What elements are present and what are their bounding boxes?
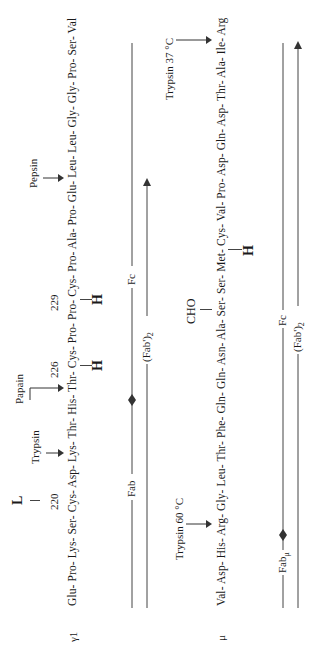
mu-fab2-line xyxy=(0,0,316,650)
mu-fab2-label: (Fab')2 xyxy=(292,322,307,352)
antibody-hinge-diagram: γ1 Glu- Pro- Lys- Ser- Cys- Asp- Lys- Th… xyxy=(0,0,316,650)
